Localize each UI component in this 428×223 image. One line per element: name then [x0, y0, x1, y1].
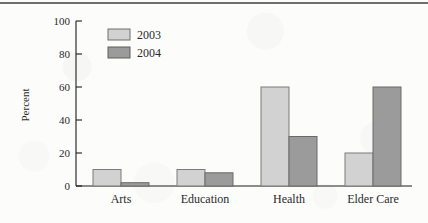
- y-tick-label-80: 80: [59, 48, 71, 60]
- y-axis-ticks: [76, 21, 82, 186]
- y-tick-label-20: 20: [59, 147, 71, 159]
- x-category-label-arts: Arts: [111, 192, 132, 206]
- legend-swatch-2003[interactable]: [108, 29, 130, 40]
- y-axis-title: Percent: [19, 89, 31, 122]
- bar-education-2004[interactable]: [205, 173, 233, 186]
- y-tick-label-40: 40: [59, 114, 71, 126]
- y-tick-label-100: 100: [54, 15, 71, 27]
- bar-health-2003[interactable]: [261, 87, 289, 186]
- x-category-label-eldercare: Elder Care: [347, 192, 399, 206]
- y-tick-label-60: 60: [59, 81, 71, 93]
- bar-health-2004[interactable]: [289, 137, 317, 187]
- y-tick-label-0: 0: [65, 180, 71, 192]
- bar-eldercare-2003[interactable]: [345, 153, 373, 186]
- x-category-label-health: Health: [273, 192, 305, 206]
- x-category-label-education: Education: [181, 192, 230, 206]
- bar-eldercare-2004[interactable]: [373, 87, 401, 186]
- legend-label-2004: 2004: [137, 46, 161, 60]
- legend: 2003 2004: [108, 28, 161, 60]
- bar-education-2003[interactable]: [177, 170, 205, 187]
- bar-arts-2004[interactable]: [121, 183, 149, 186]
- grouped-bar-chart: Percent 100 80 60 40 20 0: [0, 0, 428, 223]
- legend-swatch-2004[interactable]: [108, 47, 130, 58]
- bar-arts-2003[interactable]: [93, 170, 121, 187]
- chart-page: Percent 100 80 60 40 20 0: [0, 0, 428, 223]
- legend-label-2003: 2003: [137, 28, 161, 42]
